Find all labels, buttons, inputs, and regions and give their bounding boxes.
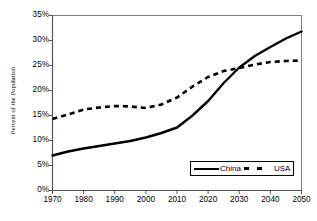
legend-label-usa: USA (274, 164, 290, 173)
legend-item-usa: USA (241, 162, 290, 175)
x-tick-label: 2050 (287, 195, 317, 204)
x-tick-label: 2010 (162, 195, 192, 204)
x-tick-label: 1980 (69, 195, 99, 204)
legend-solid-line-icon (194, 168, 219, 170)
x-tick-label: 1970 (38, 195, 68, 204)
x-axis-tick-labels: 1970 1980 1990 2000 2010 2020 2030 2040 … (0, 0, 317, 221)
x-tick-label: 2030 (224, 195, 254, 204)
legend-item-china: China (194, 162, 241, 175)
x-tick-label: 1990 (100, 195, 130, 204)
legend-label-china: China (220, 164, 241, 173)
chart-container: Percent of the Population 35% 30% 25% 20… (0, 0, 317, 221)
x-tick-label: 2020 (193, 195, 223, 204)
x-tick-label: 2040 (255, 195, 285, 204)
x-tick-label: 2000 (131, 195, 161, 204)
legend-dashed-line-icon (244, 167, 270, 170)
chart-legend: China USA (190, 161, 294, 176)
